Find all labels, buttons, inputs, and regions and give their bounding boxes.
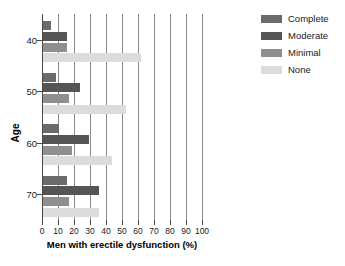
y-tick-label-70: 70 <box>26 189 37 200</box>
legend-label: Moderate <box>288 30 328 41</box>
bar-group <box>43 73 203 114</box>
x-tick-mark-10 <box>58 220 59 225</box>
x-tick-label-0: 0 <box>40 226 45 236</box>
bar <box>43 43 67 52</box>
x-tick-label-10: 10 <box>53 226 62 236</box>
legend-swatch-icon <box>261 49 282 57</box>
x-tick-label-100: 100 <box>195 226 209 236</box>
x-tick-mark-70 <box>154 220 155 225</box>
bar <box>43 186 99 195</box>
x-tick-mark-90 <box>186 220 187 225</box>
x-axis-title: Men with erectile dysfunction (%) <box>42 239 202 250</box>
y-tick-label-40: 40 <box>26 34 37 45</box>
bar <box>43 146 72 155</box>
x-tick-mark-20 <box>74 220 75 225</box>
x-tick-mark-30 <box>90 220 91 225</box>
x-tick-label-50: 50 <box>117 226 126 236</box>
x-tick-mark-40 <box>106 220 107 225</box>
bar <box>43 135 89 144</box>
bar <box>43 21 51 30</box>
y-axis-title: Age <box>10 124 21 143</box>
x-tick-label-70: 70 <box>149 226 158 236</box>
x-tick-mark-0 <box>42 220 43 225</box>
legend-label: None <box>288 64 311 75</box>
bar <box>43 176 67 185</box>
bar <box>43 208 99 217</box>
legend-item-minimal[interactable]: Minimal <box>261 45 329 60</box>
bar-group <box>43 21 203 62</box>
legend-item-moderate[interactable]: Moderate <box>261 28 329 43</box>
x-tick-label-80: 80 <box>165 226 174 236</box>
bar <box>43 94 69 103</box>
bar <box>43 53 141 62</box>
bar <box>43 124 59 133</box>
x-tick-label-90: 90 <box>181 226 190 236</box>
bar <box>43 105 126 114</box>
bar <box>43 83 80 92</box>
bar <box>43 32 67 41</box>
y-tick-label-60: 60 <box>26 137 37 148</box>
y-tick-mark-60 <box>37 143 42 144</box>
bar <box>43 156 112 165</box>
x-tick-mark-80 <box>170 220 171 225</box>
x-tick-label-20: 20 <box>69 226 78 236</box>
x-tick-label-30: 30 <box>85 226 94 236</box>
plot-area: 40506070 0102030405060708090100 <box>42 14 202 220</box>
legend-label: Complete <box>288 13 329 24</box>
y-tick-mark-70 <box>37 194 42 195</box>
x-tick-mark-60 <box>138 220 139 225</box>
legend-swatch-icon <box>261 32 282 40</box>
legend-swatch-icon <box>261 15 282 23</box>
legend-swatch-icon <box>261 66 282 74</box>
bar-group <box>43 124 203 165</box>
x-tick-mark-50 <box>122 220 123 225</box>
bar <box>43 197 69 206</box>
y-tick-mark-40 <box>37 40 42 41</box>
y-tick-label-50: 50 <box>26 86 37 97</box>
x-tick-label-60: 60 <box>133 226 142 236</box>
legend-item-complete[interactable]: Complete <box>261 11 329 26</box>
chart-figure: Age 40506070 0102030405060708090100 Men … <box>0 0 345 266</box>
x-tick-label-40: 40 <box>101 226 110 236</box>
x-tick-mark-100 <box>202 220 203 225</box>
legend-item-none[interactable]: None <box>261 62 329 77</box>
bar-group <box>43 176 203 217</box>
y-tick-mark-50 <box>37 91 42 92</box>
legend: CompleteModerateMinimalNone <box>261 11 329 79</box>
legend-label: Minimal <box>288 47 321 58</box>
bar <box>43 73 56 82</box>
